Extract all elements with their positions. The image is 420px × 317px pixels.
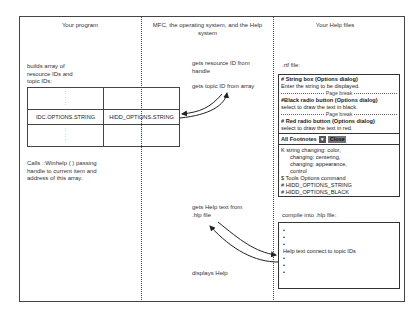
arrow-to-hlp xyxy=(218,222,276,255)
arrow-from-hlp xyxy=(210,226,278,262)
arrow-back-to-array xyxy=(182,94,222,114)
flow-arrows xyxy=(0,0,420,317)
